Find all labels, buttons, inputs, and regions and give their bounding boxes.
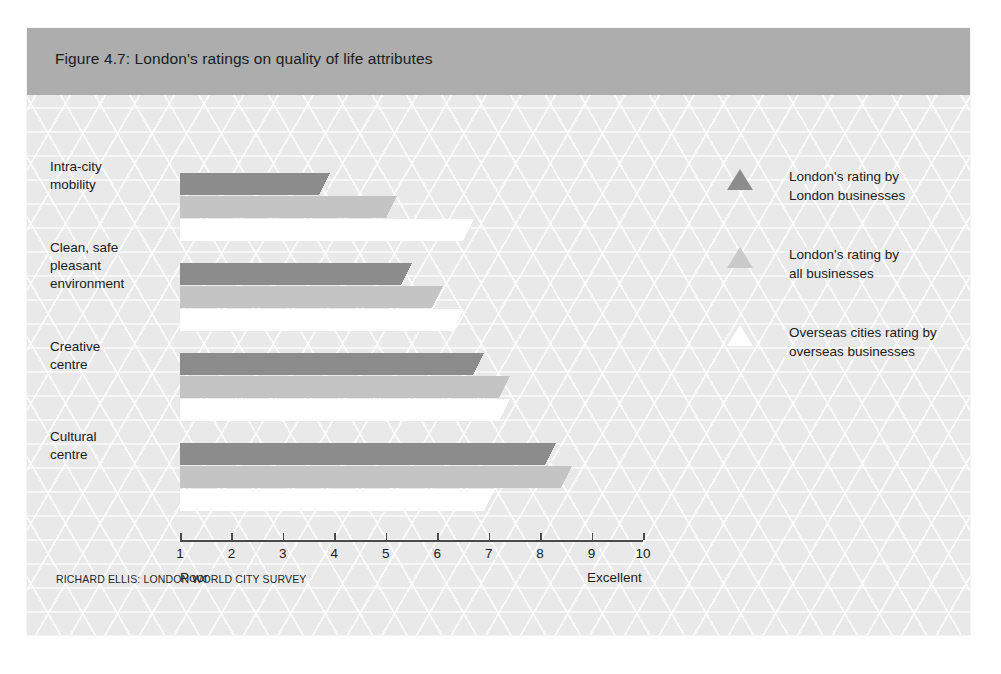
category-label-line: environment xyxy=(50,275,180,293)
axis-tick-label: 8 xyxy=(527,546,553,561)
bar xyxy=(180,466,561,488)
category-label-line: Clean, safe xyxy=(50,239,180,257)
axis-tick-label: 10 xyxy=(630,546,656,561)
bar-row xyxy=(180,173,330,195)
axis-tick-label: 4 xyxy=(321,546,347,561)
legend-label: London's rating byLondon businesses xyxy=(789,167,905,205)
bar-end-cap xyxy=(432,286,443,308)
axis-tick xyxy=(283,533,285,540)
category-label-line: mobility xyxy=(50,176,180,194)
category-label-line: pleasant xyxy=(50,257,180,275)
bar-row xyxy=(180,196,397,218)
category-label: Creativecentre xyxy=(50,338,180,374)
axis-tick xyxy=(437,533,439,540)
category-label: Intra-citymobility xyxy=(50,158,180,194)
bar xyxy=(180,219,463,241)
axis-tick-label: 6 xyxy=(424,546,450,561)
axis-tick xyxy=(180,533,182,540)
legend-label-line: overseas businesses xyxy=(789,342,937,361)
axis-high-label: Excellent xyxy=(587,570,642,585)
bar-end-cap xyxy=(401,263,412,285)
bar-row xyxy=(180,466,572,488)
bar-end-cap xyxy=(484,489,495,511)
plot-area: Intra-citymobilityClean, safepleasantenv… xyxy=(27,95,970,635)
bar-end-cap xyxy=(473,353,484,375)
category-label-line: centre xyxy=(50,356,180,374)
category-label: Culturalcentre xyxy=(50,428,180,464)
bar xyxy=(180,309,453,331)
bar xyxy=(180,443,545,465)
bar-row xyxy=(180,309,464,331)
bar-row xyxy=(180,376,510,398)
bar-end-cap xyxy=(319,173,330,195)
bar xyxy=(180,286,432,308)
bar-end-cap xyxy=(453,309,464,331)
category-label-line: centre xyxy=(50,446,180,464)
axis-tick xyxy=(231,533,233,540)
legend-label: Overseas cities rating byoverseas busine… xyxy=(789,323,937,361)
bar-row xyxy=(180,399,510,421)
legend-label-line: all businesses xyxy=(789,264,899,283)
category-label-line: Creative xyxy=(50,338,180,356)
axis-tick xyxy=(643,533,645,540)
category-label: Clean, safepleasantenvironment xyxy=(50,239,180,293)
axis-tick-label: 3 xyxy=(270,546,296,561)
bar xyxy=(180,399,499,421)
bar-row xyxy=(180,443,556,465)
bar-end-cap xyxy=(499,399,510,421)
bar xyxy=(180,196,386,218)
legend-label-line: London businesses xyxy=(789,186,905,205)
legend-label-line: London's rating by xyxy=(789,167,905,186)
axis-tick-label: 2 xyxy=(218,546,244,561)
bar-row xyxy=(180,219,474,241)
source-note: RICHARD ELLIS: LONDON WORLD CITY SURVEY xyxy=(56,573,307,585)
axis-tick xyxy=(489,533,491,540)
axis-tick xyxy=(334,533,336,540)
axis-tick xyxy=(592,533,594,540)
bar xyxy=(180,173,319,195)
bar xyxy=(180,376,499,398)
legend-label: London's rating byall businesses xyxy=(789,245,899,283)
bar xyxy=(180,353,473,375)
legend-label-line: London's rating by xyxy=(789,245,899,264)
bar-end-cap xyxy=(545,443,556,465)
axis-tick xyxy=(386,533,388,540)
axis-tick-label: 1 xyxy=(167,546,193,561)
category-label-line: Cultural xyxy=(50,428,180,446)
bar-row xyxy=(180,353,484,375)
legend-label-line: Overseas cities rating by xyxy=(789,323,937,342)
axis-tick xyxy=(540,533,542,540)
legend-triangle-icon xyxy=(727,247,753,268)
figure-header-band: Figure 4.7: London's ratings on quality … xyxy=(27,28,970,95)
figure-title: Figure 4.7: London's ratings on quality … xyxy=(55,50,433,68)
bar-end-cap xyxy=(386,196,397,218)
axis-tick-label: 7 xyxy=(476,546,502,561)
figure-panel: Figure 4.7: London's ratings on quality … xyxy=(27,28,970,635)
legend-triangle-icon xyxy=(727,325,753,346)
bar-end-cap xyxy=(463,219,474,241)
bar xyxy=(180,489,484,511)
axis-line xyxy=(180,540,643,542)
bar-end-cap xyxy=(561,466,572,488)
axis-tick-label: 5 xyxy=(373,546,399,561)
bar-end-cap xyxy=(499,376,510,398)
bar xyxy=(180,263,401,285)
axis-tick-label: 9 xyxy=(579,546,605,561)
category-label-line: Intra-city xyxy=(50,158,180,176)
bar-row xyxy=(180,489,495,511)
bar-row xyxy=(180,263,412,285)
bar-row xyxy=(180,286,443,308)
legend-triangle-icon xyxy=(727,169,753,190)
